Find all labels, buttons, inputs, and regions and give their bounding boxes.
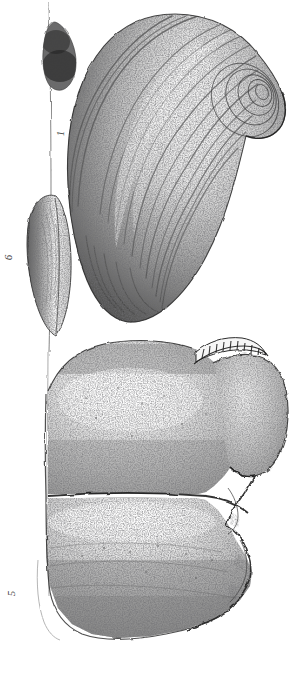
lithograph-plate: 1 6 5 <box>0 0 297 677</box>
plate-artwork <box>0 0 297 677</box>
figure-label-6: 6 <box>3 255 14 261</box>
figure-label-5: 5 <box>6 591 17 597</box>
figure-label-1: 1 <box>55 131 66 137</box>
